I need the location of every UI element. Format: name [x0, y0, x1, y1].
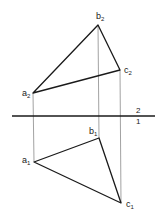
- point-label-c1: c1: [126, 199, 135, 210]
- projector-line-a: [33, 93, 34, 162]
- projector-line-b: [98, 25, 99, 138]
- projection-diagram: 2 1 a2 b2 c2 a1 b1 c1: [0, 0, 163, 214]
- axis-label-1: 1: [136, 117, 141, 126]
- point-label-b1: b1: [89, 126, 98, 137]
- point-label-a1: a1: [22, 155, 31, 166]
- point-label-c2: c2: [124, 65, 133, 76]
- projector-line-c: [120, 70, 121, 203]
- point-label-a2: a2: [22, 88, 31, 99]
- triangle-projection-2: [33, 25, 120, 93]
- triangle-projection-1: [34, 138, 121, 203]
- point-label-b2: b2: [96, 11, 105, 22]
- axis-label-2: 2: [136, 106, 141, 115]
